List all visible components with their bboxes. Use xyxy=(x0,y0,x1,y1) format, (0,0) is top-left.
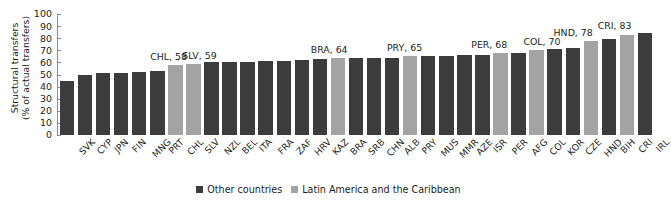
bar-alb xyxy=(385,58,399,135)
legend-label: Latin America and the Caribbean xyxy=(302,184,461,195)
bar-mmr xyxy=(439,56,453,135)
y-axis-tick-label: 70 xyxy=(26,46,52,56)
x-axis-label-col: COL xyxy=(547,137,567,157)
bar-jpn xyxy=(96,73,110,135)
legend-swatch-icon xyxy=(291,186,298,193)
x-axis-label-mus: MUS xyxy=(439,137,460,158)
legend-item-other-countries: Other countries xyxy=(196,184,282,195)
bar-pry xyxy=(403,56,417,135)
data-label-col: COL, 70 xyxy=(523,37,560,46)
bar-afg xyxy=(511,53,525,135)
bar-chn xyxy=(367,58,381,135)
data-label-per: PER, 68 xyxy=(471,40,507,49)
x-axis-label-bel: BEL xyxy=(240,137,259,156)
x-axis-label-bra: BRA xyxy=(348,137,368,157)
x-axis-label-kaz: KAZ xyxy=(330,137,350,157)
bar-mus xyxy=(421,56,435,135)
data-label-slv: SLV, 59 xyxy=(182,51,216,60)
bar-svk xyxy=(60,81,74,135)
bar-per xyxy=(493,53,507,135)
data-label-bra: BRA, 64 xyxy=(311,45,348,54)
x-axis-label-bih: BIH xyxy=(619,137,637,155)
bar-col xyxy=(529,50,543,135)
y-axis-tick-label: 30 xyxy=(26,94,52,104)
bar-fra xyxy=(258,61,272,135)
bar-bra xyxy=(331,58,345,135)
bar-hnd xyxy=(584,41,598,135)
data-label-cri: CRI, 83 xyxy=(598,21,632,30)
bar-slv xyxy=(186,64,200,135)
bar-chl xyxy=(168,65,182,135)
y-axis-tick-label: 40 xyxy=(26,82,52,92)
y-axis-title-line-2: (% of actual transfers) xyxy=(20,16,31,120)
y-axis-tick-mark xyxy=(57,135,61,136)
y-axis-tick-label: 100 xyxy=(26,9,52,19)
chart-legend: Other countriesLatin America and the Car… xyxy=(0,181,657,197)
bar-nzl xyxy=(204,62,218,135)
x-axis-label-jpn: JPN xyxy=(113,137,130,154)
x-axis-label-srb: SRB xyxy=(366,137,386,157)
x-axis-label-cze: CZE xyxy=(583,137,603,157)
y-axis-tick-label: 50 xyxy=(26,70,52,80)
bar-cri xyxy=(620,35,634,135)
bar-isr xyxy=(475,55,489,135)
y-axis-tick-label: 20 xyxy=(26,106,52,116)
y-axis-tick-label: 80 xyxy=(26,34,52,44)
bar-cze xyxy=(566,48,580,135)
legend-swatch-icon xyxy=(196,186,203,193)
x-axis-label-per: PER xyxy=(511,137,530,156)
x-axis-label-ita: ITA xyxy=(257,137,273,153)
data-label-pry: PRY, 65 xyxy=(387,43,422,52)
bar-zaf xyxy=(277,61,291,135)
x-axis-label-nzl: NZL xyxy=(222,137,241,156)
y-axis-tick-label: 0 xyxy=(26,130,52,140)
x-axis-label-hrv: HRV xyxy=(312,137,332,157)
x-axis-label-irl: IRL xyxy=(654,137,671,154)
data-label-hnd: HND, 78 xyxy=(554,28,593,37)
legend-item-latin-america-caribbean: Latin America and the Caribbean xyxy=(291,184,461,195)
y-axis-tick-label: 10 xyxy=(26,118,52,128)
bar-irl xyxy=(638,33,652,135)
y-axis-tick-label: 60 xyxy=(26,58,52,68)
bar-aze xyxy=(457,55,471,135)
x-axis-label-zaf: ZAF xyxy=(294,137,313,156)
bar-srb xyxy=(349,58,363,135)
plot-area: CHL, 58SLV, 59BRA, 64PRY, 65PER, 68COL, … xyxy=(58,14,654,135)
y-axis-tick-label: 90 xyxy=(26,22,52,32)
x-axis-label-afg: AFG xyxy=(529,137,549,157)
x-axis-label-slv: SLV xyxy=(203,137,221,155)
bar-kaz xyxy=(313,59,327,135)
bar-mng xyxy=(132,72,146,135)
legend-label: Other countries xyxy=(207,184,282,195)
y-axis-title-line-1: Structural transfers xyxy=(9,23,20,114)
bar-cyp xyxy=(78,75,92,136)
bar-kor xyxy=(547,49,561,135)
x-axis-label-isr: ISR xyxy=(492,137,509,154)
x-axis-label-fin: FIN xyxy=(131,137,148,154)
bar-hrv xyxy=(295,60,309,135)
x-axis-label-prt: PRT xyxy=(167,137,185,155)
bar-fin xyxy=(114,73,128,135)
x-axis-label-fra: FRA xyxy=(276,137,295,156)
x-axis-label-cri: CRI xyxy=(636,137,653,154)
x-axis-label-kor: KOR xyxy=(565,137,585,157)
x-axis-label-svk: SVK xyxy=(77,137,96,156)
x-axis-labels: SVKCYPJPNFINMNGPRTCHLSLVNZLBELITAFRAZAFH… xyxy=(58,137,654,177)
bar-bel xyxy=(222,62,236,135)
x-axis-label-alb: ALB xyxy=(402,137,421,156)
bar-ita xyxy=(240,62,254,135)
x-axis-label-pry: PRY xyxy=(420,137,438,155)
bar-prt xyxy=(150,71,164,135)
bar-bih xyxy=(602,39,616,135)
